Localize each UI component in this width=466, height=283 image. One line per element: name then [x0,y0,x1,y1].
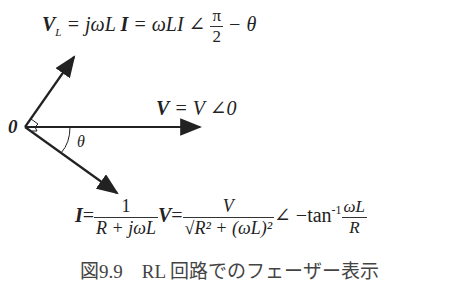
i-phasor-arrow [25,127,117,193]
theta-arc [61,127,70,153]
theta-label: θ [77,133,85,151]
figure-caption: 図9.9 RL 回路でのフェーザー表示 [80,256,379,283]
i-equation: I=1R + jωLV=V√R² + (ωL)²∠ −tan-1ωLR [75,196,367,239]
vl-phasor-arrow [25,57,74,127]
right-angle-mark [31,119,38,127]
vl-equation: VL = jωL I = ωLI ∠ π2 − θ [42,6,256,47]
origin-label: 0 [8,116,18,138]
v-equation: V = V ∠0 [156,96,236,120]
